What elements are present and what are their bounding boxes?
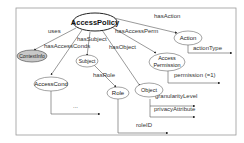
label-action-type: actionType [193, 45, 223, 51]
node-access-permission[interactable]: Access Permission [149, 53, 185, 71]
node-subject-label: Subject [79, 58, 96, 64]
node-context-info-label: ContextInfo [19, 53, 45, 59]
label-access-cond-ellipsis: ... [73, 103, 78, 109]
label-has-role: hasRole [93, 72, 116, 78]
node-access-permission-label-1: Access [158, 55, 176, 61]
ontology-diagram: uses hasAccessConds hasSubject hasObject… [0, 0, 244, 143]
label-role-id: roleID [136, 122, 153, 128]
node-access-cond-label: AccessCond [34, 81, 68, 87]
label-uses: uses [48, 28, 61, 34]
label-has-subject: hasSubject [77, 36, 107, 42]
node-subject[interactable]: Subject [76, 55, 98, 67]
node-object[interactable]: Object [135, 83, 163, 97]
label-has-access-conds: hasAccessConds [44, 43, 90, 49]
label-has-access-perm: hasAccessPerm [115, 28, 158, 34]
node-access-permission-label-2: Permission [153, 62, 180, 68]
node-action[interactable]: Action [174, 31, 202, 45]
node-action-label: Action [180, 35, 197, 41]
label-privacy-attribute: privacyAttribute [154, 106, 196, 112]
node-access-cond[interactable]: AccessCond [34, 77, 68, 91]
node-role-label: Role [112, 90, 125, 96]
label-permission: permission (=1) [174, 72, 216, 78]
node-role[interactable]: Role [107, 87, 129, 99]
node-access-policy-label: AccessPolicy [71, 18, 120, 27]
label-granularity-level: granularityLevel [155, 93, 197, 99]
node-object-label: Object [141, 87, 157, 93]
label-has-action: hasAction [154, 13, 180, 19]
label-has-object: hasObject [109, 44, 136, 50]
node-context-info[interactable]: ContextInfo [17, 50, 47, 62]
